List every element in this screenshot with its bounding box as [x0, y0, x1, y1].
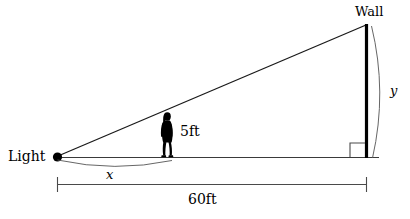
right-angle-icon [350, 143, 365, 157]
light-ray-line [58, 25, 366, 156]
wall-label: Wall [355, 5, 383, 18]
base-distance-label: 60ft [188, 192, 217, 206]
y-variable-label: y [390, 84, 397, 97]
person-height-label: 5ft [180, 124, 200, 138]
light-label: Light [8, 149, 45, 163]
x-brace [58, 160, 173, 166]
person-silhouette [161, 112, 174, 157]
diagram-canvas: Light Wall 5ft 60ft x y [0, 0, 410, 219]
geometry-diagram [0, 0, 410, 219]
y-brace [372, 26, 380, 158]
x-variable-label: x [106, 168, 113, 181]
